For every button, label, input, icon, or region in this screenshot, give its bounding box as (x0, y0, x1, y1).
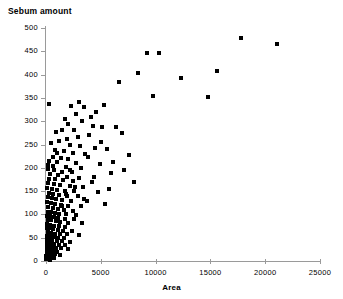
data-point (132, 180, 136, 184)
data-point (68, 168, 72, 172)
data-point (157, 51, 161, 55)
data-point (65, 137, 69, 141)
data-point (72, 128, 76, 132)
data-point (58, 183, 62, 187)
y-tick-label: 500 (0, 23, 38, 32)
y-tick-label: 400 (0, 70, 38, 79)
data-point (77, 176, 81, 180)
data-point (109, 171, 113, 175)
data-point (59, 156, 63, 160)
data-point (81, 185, 85, 189)
data-point (80, 119, 84, 123)
data-point (105, 147, 109, 151)
data-point (117, 80, 121, 84)
data-point (122, 168, 126, 172)
y-tick-label: 350 (0, 93, 38, 102)
data-point (47, 177, 51, 181)
data-point (66, 247, 70, 251)
data-point (206, 95, 210, 99)
data-point (48, 258, 52, 262)
data-point (69, 199, 73, 203)
data-point (86, 155, 90, 159)
scatter-chart: Sebum amount 050100150200250300350400450… (0, 0, 343, 299)
data-point (68, 184, 72, 188)
y-tick-label: 150 (0, 186, 38, 195)
data-point (72, 217, 76, 221)
data-point (70, 229, 74, 233)
data-point (52, 168, 56, 172)
data-point (49, 141, 53, 145)
data-point (61, 178, 65, 182)
data-point (66, 122, 70, 126)
x-axis-line (45, 261, 321, 262)
data-point (55, 160, 59, 164)
data-point (74, 112, 78, 116)
data-point (98, 162, 102, 166)
x-tick-label: 25000 (309, 268, 331, 277)
data-point (46, 181, 50, 185)
data-point (50, 187, 54, 191)
data-point (74, 161, 78, 165)
data-point (136, 71, 140, 75)
data-point (69, 104, 73, 108)
data-point (77, 233, 81, 237)
data-point (90, 180, 94, 184)
y-tick-label: 50 (0, 233, 38, 242)
data-point (215, 69, 219, 73)
plot-area (46, 28, 320, 261)
x-tick-label: 15000 (199, 268, 221, 277)
data-point (66, 204, 70, 208)
data-point (68, 240, 72, 244)
data-point (54, 197, 58, 201)
data-point (58, 253, 62, 257)
data-point (72, 189, 76, 193)
data-point (52, 256, 56, 260)
data-point (79, 166, 83, 170)
data-point (53, 177, 57, 181)
data-point (62, 149, 66, 153)
data-point (82, 105, 86, 109)
data-point (60, 198, 64, 202)
data-point (92, 175, 96, 179)
data-point (55, 151, 59, 155)
data-point (52, 182, 56, 186)
data-point (64, 165, 68, 169)
y-tick-label: 200 (0, 163, 38, 172)
x-axis-label: Area (0, 283, 343, 292)
data-point (54, 130, 58, 134)
data-point (82, 197, 86, 201)
data-point (64, 192, 68, 196)
data-point (103, 202, 107, 206)
x-tick-label: 5000 (92, 268, 110, 277)
data-point (96, 190, 100, 194)
data-point (151, 94, 155, 98)
data-point (111, 160, 115, 164)
data-point (60, 128, 64, 132)
data-point (94, 110, 98, 114)
data-point (80, 221, 84, 225)
data-point (102, 103, 106, 107)
y-tick-label: 250 (0, 140, 38, 149)
data-point (99, 140, 103, 144)
data-point (57, 139, 61, 143)
data-point (73, 185, 77, 189)
data-point (120, 131, 124, 135)
data-point (275, 42, 279, 46)
data-point (87, 133, 91, 137)
data-point (91, 124, 95, 128)
data-point (77, 100, 81, 104)
data-point (60, 170, 64, 174)
x-tick-label: 20000 (254, 268, 276, 277)
data-point (63, 117, 67, 121)
data-point (60, 204, 64, 208)
y-tick-label: 100 (0, 209, 38, 218)
data-point (45, 186, 49, 190)
data-point (47, 102, 51, 106)
y-tick-label: 0 (0, 256, 38, 265)
data-point (239, 36, 243, 40)
x-tick-mark (320, 259, 321, 264)
chart-title: Sebum amount (8, 6, 72, 16)
x-tick-label: 10000 (144, 268, 166, 277)
data-point (145, 51, 149, 55)
data-point (46, 167, 50, 171)
